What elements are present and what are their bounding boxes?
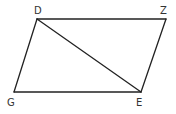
edge-ZE: [141, 19, 166, 92]
vertex-label-E: E: [136, 97, 142, 108]
diagonal-DE: [37, 19, 141, 92]
parallelogram-diagram: D Z E G: [0, 0, 176, 114]
edge-GD: [14, 19, 37, 92]
vertex-label-D: D: [34, 5, 42, 16]
vertex-label-Z: Z: [160, 5, 167, 16]
vertex-label-G: G: [7, 97, 15, 108]
